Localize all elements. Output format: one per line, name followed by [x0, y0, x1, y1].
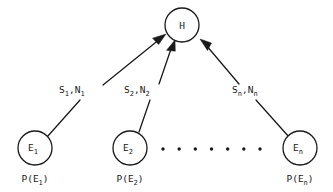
edge-label-s1-n1: S1,N1 — [59, 84, 85, 98]
edge-label-sn-nn: Sn,Nn — [232, 84, 258, 98]
ellipsis-dot — [161, 147, 164, 150]
diagram-canvas: H E1 P(E1) E2 P(E2) En P(En) S1,N1 S — [0, 0, 333, 192]
ellipsis-dot — [194, 147, 197, 150]
probability-label-e1: P(E1) — [21, 173, 48, 187]
inference-network-diagram: H E1 P(E1) E2 P(E2) En P(En) S1,N1 S — [0, 0, 333, 192]
ellipsis-dot — [258, 147, 261, 150]
probability-label-en: P(En) — [286, 173, 313, 187]
ellipsis-dot — [242, 147, 245, 150]
ellipsis-dots — [161, 147, 261, 150]
edge-line-en-lower — [256, 100, 289, 137]
edge-line-e2-lower — [139, 100, 150, 132]
ellipsis-dot — [210, 147, 213, 150]
ellipsis-dot — [177, 147, 180, 150]
ellipsis-dot — [226, 147, 229, 150]
edge-line-en-upper — [206, 45, 239, 84]
edge-label-s2-n2: S2,N2 — [124, 84, 150, 98]
edge-line-e1-lower — [48, 100, 81, 137]
arrowhead-e2-to-h — [167, 40, 176, 51]
probability-label-e2: P(E2) — [116, 173, 143, 187]
edge-line-e2-upper — [159, 46, 172, 84]
node-hypothesis-h-label: H — [179, 20, 185, 31]
edge-line-e1-upper — [103, 39, 161, 86]
